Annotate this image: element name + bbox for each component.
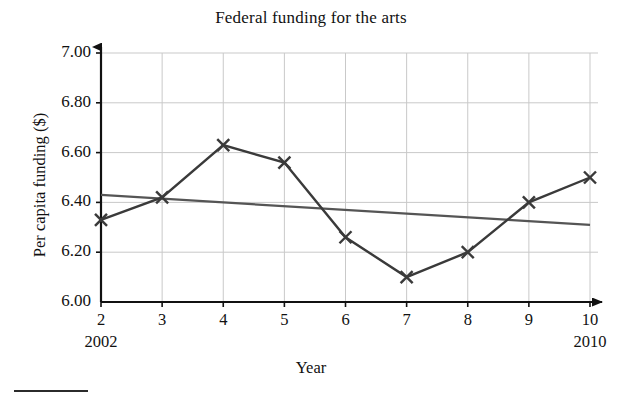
plot-area bbox=[0, 0, 622, 399]
footer-rule bbox=[14, 390, 88, 392]
axes bbox=[96, 47, 602, 307]
chart-container: Federal funding for the arts Per capita … bbox=[0, 0, 622, 399]
gridlines bbox=[101, 53, 598, 302]
